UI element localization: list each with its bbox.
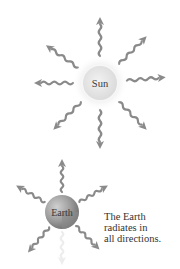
earth-arrow-down-left bbox=[25, 225, 52, 255]
caption-line-2: radiates in bbox=[104, 222, 180, 233]
arrowhead-icon bbox=[14, 182, 25, 193]
sun-arrow-up-left bbox=[44, 42, 81, 71]
sun-arrow-down-right bbox=[116, 99, 149, 132]
sun-arrow-down-left bbox=[51, 99, 84, 132]
sun-arrow-up-right bbox=[116, 34, 149, 67]
caption-line-1: The Earth bbox=[104, 211, 180, 222]
earth-label: Earth bbox=[51, 207, 73, 218]
sun: Sun bbox=[72, 55, 128, 111]
arrowhead-icon bbox=[138, 121, 149, 132]
earth-arrow-down-right bbox=[73, 223, 102, 252]
earth-arrow-up-left bbox=[14, 182, 47, 205]
earth: Earth bbox=[45, 195, 79, 229]
arrowhead-icon bbox=[44, 42, 55, 53]
sun-arrow-right bbox=[127, 73, 167, 84]
sun-arrow-up bbox=[96, 17, 104, 56]
sun-arrow-down bbox=[96, 110, 104, 149]
arrowhead-icon bbox=[25, 244, 36, 255]
earth-arrow-up-right bbox=[77, 182, 110, 205]
sun-arrow-left bbox=[34, 79, 73, 87]
sun-label: Sun bbox=[92, 78, 109, 89]
caption: The Earth radiates in all directions. bbox=[104, 211, 180, 244]
earth-arrow-up bbox=[58, 159, 66, 192]
caption-line-3: all directions. bbox=[104, 233, 180, 244]
arrowhead-icon bbox=[51, 121, 62, 132]
arrowhead-icon bbox=[138, 34, 149, 45]
arrowhead-icon bbox=[91, 241, 102, 252]
earth-arrow-down bbox=[58, 232, 66, 265]
